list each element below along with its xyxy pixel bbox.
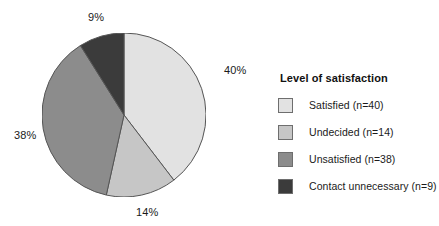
legend-item-satisfied[interactable]: Satisfied (n=40)	[278, 97, 436, 113]
legend-label-unsatisfied: Unsatisfied (n=38)	[309, 153, 395, 165]
legend-label-contact-unnecessary: Contact unnecessary (n=9)	[309, 180, 437, 192]
legend-swatch-contact-unnecessary	[278, 179, 293, 194]
legend-item-contact-unnecessary[interactable]: Contact unnecessary (n=9)	[278, 178, 436, 194]
legend-item-undecided[interactable]: Undecided (n=14)	[278, 124, 436, 140]
legend-swatch-satisfied	[278, 98, 293, 113]
legend-swatch-undecided	[278, 125, 293, 140]
legend-title: Level of satisfaction	[280, 72, 436, 84]
pie-label-unsatisfied-percent: 38%	[14, 129, 36, 141]
legend-item-unsatisfied[interactable]: Unsatisfied (n=38)	[278, 151, 436, 167]
legend-label-satisfied: Satisfied (n=40)	[309, 99, 384, 111]
legend: Level of satisfaction Satisfied (n=40) U…	[278, 72, 436, 205]
pie-label-undecided-percent: 14%	[136, 206, 158, 218]
legend-label-undecided: Undecided (n=14)	[309, 126, 394, 138]
pie-chart-figure: 40% 14% 38% 9% Level of satisfaction Sat…	[0, 0, 439, 226]
pie-chart-graphic	[42, 33, 206, 197]
pie-svg	[42, 33, 206, 197]
pie-label-contact-unnecessary-percent: 9%	[88, 11, 104, 23]
legend-swatch-unsatisfied	[278, 152, 293, 167]
pie-label-satisfied-percent: 40%	[224, 64, 246, 76]
